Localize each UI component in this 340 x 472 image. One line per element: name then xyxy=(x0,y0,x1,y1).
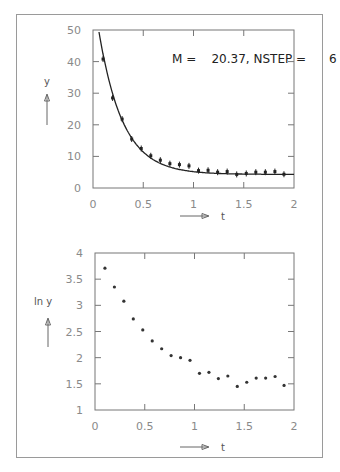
y-tick-label: 3.5 xyxy=(66,273,84,286)
data-point xyxy=(207,371,210,374)
y-tick-label: 2.5 xyxy=(66,326,84,339)
y-tick-label: 0 xyxy=(74,182,81,195)
data-point xyxy=(122,300,125,303)
plot-area xyxy=(95,253,294,410)
top-x-arrow-icon xyxy=(180,214,209,219)
bottom-y-arrow-icon xyxy=(46,318,51,347)
data-point xyxy=(170,354,173,357)
data-point xyxy=(188,359,191,362)
data-point xyxy=(226,170,229,173)
data-point xyxy=(236,385,239,388)
data-point xyxy=(159,159,162,162)
data-point xyxy=(160,347,163,350)
x-tick-label: 0 xyxy=(90,198,97,211)
fit-annotation: M = 20.37, NSTEP = 6 xyxy=(172,52,337,66)
data-point xyxy=(103,267,106,270)
y-tick-label: 1 xyxy=(76,404,83,417)
y-tick-label: 40 xyxy=(67,56,81,69)
y-tick-label: 30 xyxy=(67,87,81,100)
y-tick-label: 20 xyxy=(67,119,81,132)
data-point xyxy=(264,171,267,174)
data-point xyxy=(151,339,154,342)
x-tick-label: 0.5 xyxy=(135,198,153,211)
data-point xyxy=(179,356,182,359)
x-tick-label: 0 xyxy=(92,420,99,433)
data-point xyxy=(282,384,285,387)
data-point xyxy=(198,372,201,375)
y-tick-label: 1.5 xyxy=(66,378,84,391)
y-tick-label: 4 xyxy=(76,247,83,260)
bottom-x-axis-label: t xyxy=(221,442,225,453)
x-tick-label: 1 xyxy=(190,198,197,211)
data-point xyxy=(273,375,276,378)
top-y-arrow-icon xyxy=(45,94,50,125)
data-point xyxy=(132,317,135,320)
y-tick-label: 10 xyxy=(67,150,81,163)
top-x-axis-label: t xyxy=(221,211,225,222)
data-point xyxy=(168,162,171,165)
data-point xyxy=(226,374,229,377)
bottom-x-arrow-icon xyxy=(180,445,209,450)
x-tick-label: 0.5 xyxy=(136,420,154,433)
top-y-axis-label: y xyxy=(44,76,50,87)
x-tick-label: 2 xyxy=(291,420,298,433)
y-tick-label: 2 xyxy=(76,352,83,365)
data-point xyxy=(217,377,220,380)
data-point xyxy=(207,169,210,172)
data-point xyxy=(255,376,258,379)
y-tick-label: 50 xyxy=(67,24,81,37)
data-point xyxy=(264,376,267,379)
x-tick-label: 1.5 xyxy=(236,420,254,433)
data-point xyxy=(178,163,181,166)
x-tick-label: 1.5 xyxy=(235,198,253,211)
bottom-y-axis-label: ln y xyxy=(34,296,52,307)
data-point xyxy=(187,164,190,167)
data-point xyxy=(141,328,144,331)
data-point xyxy=(273,170,276,173)
data-point xyxy=(245,381,248,384)
x-tick-label: 2 xyxy=(291,198,298,211)
data-point xyxy=(113,285,116,288)
x-tick-label: 1 xyxy=(191,420,198,433)
y-tick-label: 3 xyxy=(76,299,83,312)
bottom-plot: 00.511.5211.522.533.54 xyxy=(66,247,298,433)
data-point xyxy=(254,171,257,174)
figure: 00.511.5201020304050 00.511.5211.522.533… xyxy=(0,0,340,472)
